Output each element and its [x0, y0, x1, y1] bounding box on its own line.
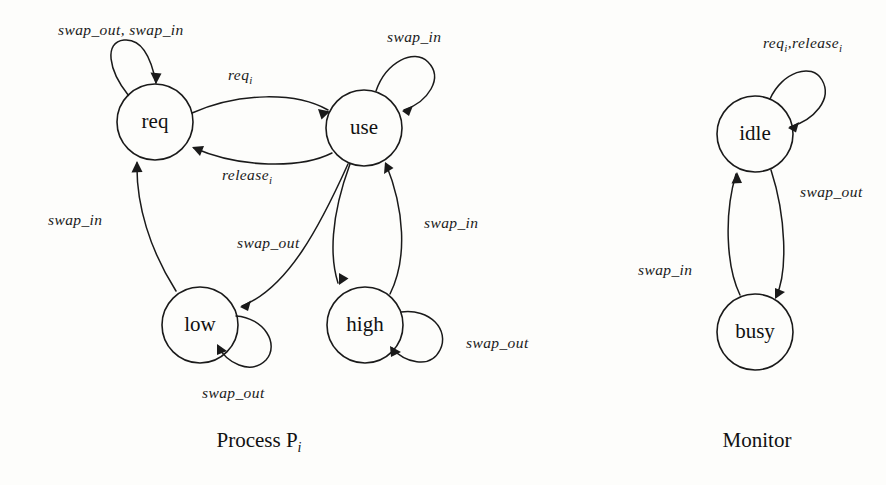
process-diagram-group: req use low high swap_out, swap_in reqi … [48, 21, 529, 455]
arrowhead-busy-to-idle [732, 172, 743, 184]
arrowhead-idle-to-busy [775, 288, 785, 299]
edge-label-req-to-use-text: req [228, 66, 249, 83]
arrowhead-req-self [151, 73, 162, 85]
transition-high-to-use [384, 162, 402, 294]
state-label-idle: idle [739, 121, 771, 145]
transition-busy-to-idle [728, 172, 742, 295]
caption-process-sub: i [298, 440, 302, 455]
edge-label-idle-self: reqi,releasei [763, 34, 843, 54]
state-label-high: high [346, 312, 384, 336]
edge-label-idle-self-b-sub: i [839, 42, 842, 54]
arrowhead-low-to-req [132, 161, 143, 173]
edge-label-use-to-req: releasei [222, 166, 272, 186]
arrowhead-use-self [402, 106, 413, 117]
transition-low-self-loop [217, 316, 271, 367]
caption-process: Process Pi [217, 428, 302, 455]
state-diagram-svg: req use low high swap_out, swap_in reqi … [0, 0, 886, 485]
state-label-busy: busy [735, 319, 775, 343]
transition-use-to-high [333, 164, 350, 285]
edge-label-idle-self-b: release [792, 34, 839, 51]
edge-label-req-to-use: reqi [228, 66, 253, 86]
transition-use-to-req [192, 146, 332, 164]
edge-label-use-to-low: swap_out [237, 234, 300, 251]
transition-low-to-req [132, 161, 177, 291]
edge-label-use-to-req-sub: i [269, 174, 272, 186]
edge-label-high-self: swap_out [466, 334, 529, 351]
edge-label-high-to-use: swap_in [424, 214, 478, 231]
edge-label-idle-to-busy: swap_out [800, 183, 863, 200]
figure-canvas: req use low high swap_out, swap_in reqi … [0, 0, 886, 485]
edge-label-use-to-req-text: release [222, 166, 269, 183]
edge-label-req-to-use-sub: i [249, 74, 252, 86]
transition-req-to-use [192, 97, 330, 120]
edge-label-idle-self-a: req [763, 34, 784, 51]
transition-idle-to-busy [771, 170, 785, 299]
caption-process-main: Process P [217, 428, 298, 452]
transition-req-self-loop [111, 40, 162, 96]
edge-label-low-to-req: swap_in [48, 211, 102, 228]
edge-label-low-self: swap_out [202, 384, 265, 401]
edge-label-use-self: swap_in [387, 28, 441, 45]
monitor-diagram-group: idle busy reqi,releasei swap_out swap_in… [638, 34, 863, 452]
transition-idle-self-loop [770, 71, 825, 133]
state-label-use: use [350, 115, 378, 139]
arrowhead-use-to-high [339, 273, 349, 285]
state-label-req: req [142, 109, 169, 133]
state-label-low: low [184, 312, 216, 336]
edge-label-req-self: swap_out, swap_in [58, 21, 184, 38]
transition-high-self-loop [390, 312, 443, 362]
caption-monitor: Monitor [723, 428, 792, 452]
transition-use-self-loop [376, 57, 434, 116]
edge-label-busy-to-idle: swap_in [638, 261, 692, 278]
